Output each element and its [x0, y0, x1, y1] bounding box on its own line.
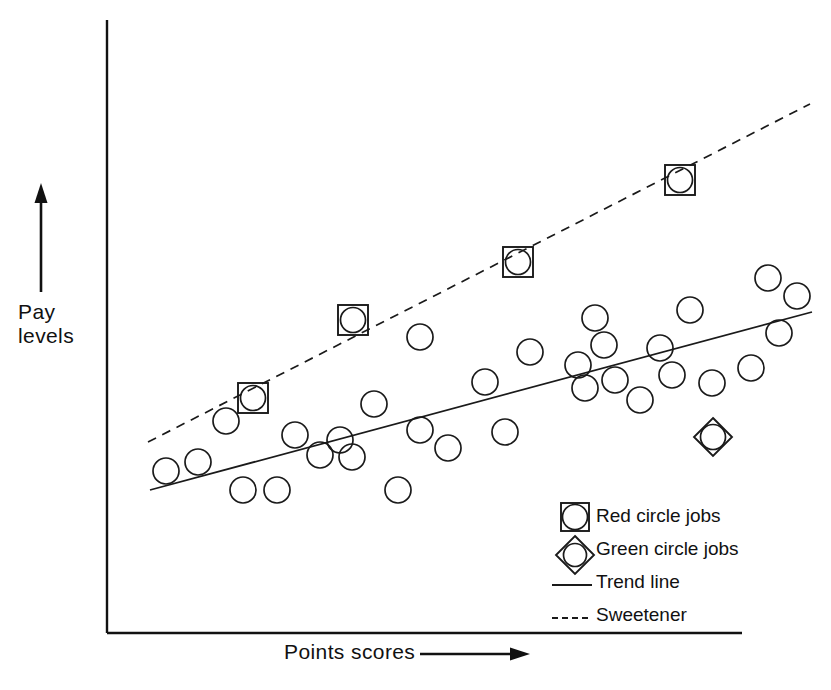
data-point-ordinary-jobs [699, 370, 725, 396]
legend-label-red-circle-jobs: Red circle jobs [596, 505, 721, 527]
data-point-green-circle-jobs [694, 418, 732, 456]
y-axis-arrow [35, 183, 48, 292]
data-point-ordinary-jobs [602, 367, 628, 393]
x-axis-label: Points scores [284, 640, 415, 664]
data-point-ordinary-jobs [230, 477, 256, 503]
data-point-ordinary-jobs [784, 283, 810, 309]
data-point-ordinary-jobs [755, 265, 781, 291]
y-axis-label: Pay levels [18, 300, 104, 347]
data-point-ordinary-jobs [517, 339, 543, 365]
data-point-ordinary-jobs [153, 458, 179, 484]
x-axis-arrow [420, 648, 530, 661]
data-point-ordinary-jobs [582, 305, 608, 331]
data-point-ordinary-jobs [327, 427, 353, 453]
legend-group [552, 503, 594, 618]
data-point-ordinary-jobs [282, 422, 308, 448]
data-point-ordinary-jobs [435, 435, 461, 461]
scatter-plot-canvas [0, 0, 831, 690]
data-point-ordinary-jobs [627, 387, 653, 413]
data-point-ordinary-jobs [647, 335, 673, 361]
fitted-lines-group [148, 104, 812, 490]
data-point-ordinary-jobs [572, 375, 598, 401]
data-point-ordinary-jobs [407, 417, 433, 443]
data-point-ordinary-jobs [385, 477, 411, 503]
data-point-ordinary-jobs [492, 419, 518, 445]
data-point-ordinary-jobs [407, 324, 433, 350]
data-point-ordinary-jobs [659, 362, 685, 388]
data-point-ordinary-jobs [738, 355, 764, 381]
data-point-ordinary-jobs [213, 408, 239, 434]
data-point-ordinary-jobs [185, 449, 211, 475]
legend-label-sweetener: Sweetener [596, 604, 687, 626]
data-point-ordinary-jobs [339, 444, 365, 470]
plot-line-trend-line [150, 312, 812, 490]
data-point-ordinary-jobs [591, 332, 617, 358]
legend-label-trend-line: Trend line [596, 571, 680, 593]
plot-line-sweetener [148, 104, 810, 442]
legend-label-green-circle-jobs: Green circle jobs [596, 538, 739, 560]
legend-marker-green-circle-jobs [556, 536, 594, 574]
data-point-ordinary-jobs [264, 477, 290, 503]
data-point-red-circle-jobs [338, 305, 368, 335]
legend-marker-red-circle-jobs [561, 503, 589, 531]
data-point-ordinary-jobs [677, 297, 703, 323]
data-point-ordinary-jobs [472, 369, 498, 395]
data-point-ordinary-jobs [361, 391, 387, 417]
data-points-group [153, 165, 810, 503]
data-point-ordinary-jobs [766, 320, 792, 346]
chart-figure: Pay levels Points scores Red circle jobs… [0, 0, 831, 690]
data-point-red-circle-jobs [503, 247, 533, 277]
